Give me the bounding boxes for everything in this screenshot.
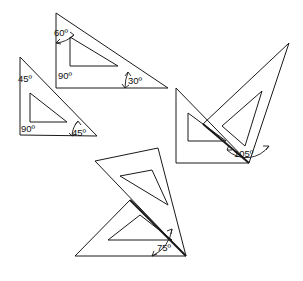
right-slanted-cutout	[222, 91, 262, 146]
angle-arrow-60	[56, 39, 61, 44]
angle-label-45-bottom: 45º	[72, 127, 87, 138]
diagram-root: 60º 90º 30º 45º 90º 45º 105º 75º	[0, 0, 303, 281]
top-set-square-cutout	[70, 37, 118, 66]
bottom-pair-group	[75, 148, 186, 256]
top-set-square-outline	[56, 13, 168, 88]
bottom-square-cutout	[108, 215, 172, 240]
right-pair-group	[176, 43, 289, 163]
angle-arrow-105b	[263, 146, 269, 150]
angle-label-105: 105º	[234, 148, 254, 159]
angle-label-90-left: 90º	[21, 123, 36, 134]
angle-label-75: 75º	[157, 242, 172, 253]
angle-label-60: 60º	[54, 27, 69, 38]
right-slanted-outline	[203, 43, 289, 163]
angle-label-30: 30º	[128, 75, 143, 86]
angle-label-90-top: 90º	[58, 70, 73, 81]
left-set-square-cutout	[30, 93, 67, 122]
angle-label-45-top: 45º	[18, 73, 33, 84]
angle-arrow-75b	[167, 229, 172, 234]
top-set-square-group	[56, 13, 168, 88]
bottom-slanted-cutout	[120, 170, 168, 205]
set-square-diagram: 60º 90º 30º 45º 90º 45º 105º 75º	[0, 0, 303, 281]
